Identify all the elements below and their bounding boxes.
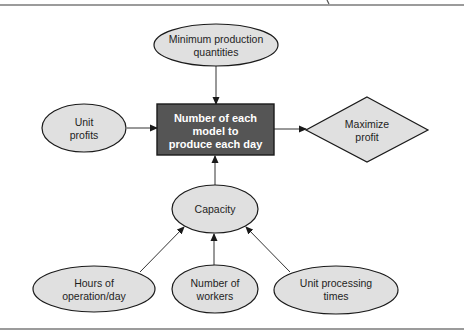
cropped-glyph-fragment xyxy=(327,0,329,4)
node-label-line1: Minimum production xyxy=(169,33,264,45)
node-minimum-production-quantities: Minimum production quantities xyxy=(154,24,278,66)
node-label-line1: Capacity xyxy=(195,203,237,215)
node-label-line2: model to xyxy=(193,125,239,137)
node-label-line1: Number of each xyxy=(174,112,257,124)
node-unit-processing-times: Unit processing times xyxy=(274,266,398,314)
node-label-line2: profits xyxy=(70,129,99,141)
influence-diagram: Minimum production quantities Unit profi… xyxy=(0,0,464,333)
node-unit-profits: Unit profits xyxy=(42,104,126,152)
node-label-line2: operation/day xyxy=(62,290,126,302)
ellipse-shape xyxy=(172,265,258,313)
node-capacity: Capacity xyxy=(172,185,258,233)
edge-hours-to-capacity xyxy=(140,227,184,272)
node-label-line1: Unit xyxy=(75,116,94,128)
node-label-line2: profit xyxy=(355,131,378,143)
ellipse-shape xyxy=(33,266,155,312)
edge-processing-to-capacity xyxy=(246,227,290,272)
node-label-line1: Unit processing xyxy=(300,277,373,289)
node-label-line2: workers xyxy=(196,290,234,302)
node-number-of-workers: Number of workers xyxy=(172,265,258,313)
node-label-line2: quantities xyxy=(194,46,239,58)
node-label-line1: Maximize xyxy=(345,118,389,130)
node-label-line3: produce each day xyxy=(169,138,263,150)
ellipse-shape xyxy=(154,24,278,66)
node-maximize-profit: Maximize profit xyxy=(306,97,428,162)
node-label-line2: times xyxy=(323,290,348,302)
node-label-line1: Number of xyxy=(190,277,239,289)
node-hours-of-operation: Hours of operation/day xyxy=(33,266,155,312)
node-label-line1: Hours of xyxy=(74,277,114,289)
node-decision-number-of-each-model: Number of each model to produce each day xyxy=(157,104,274,155)
ellipse-shape xyxy=(42,104,126,152)
